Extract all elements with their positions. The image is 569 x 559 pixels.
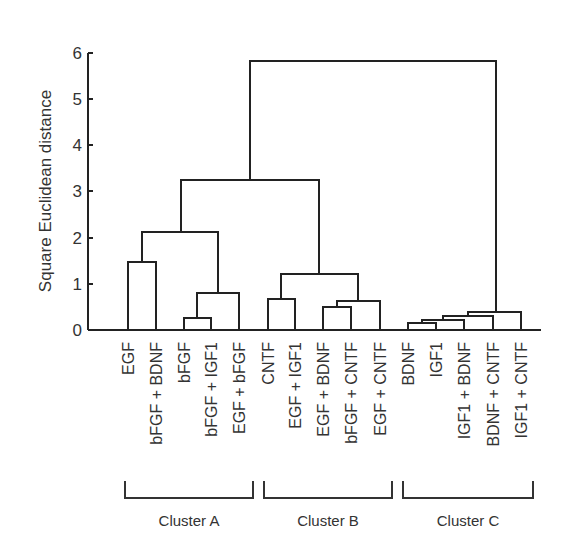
leaf-label: EGF + BDNF [315,342,332,437]
y-tick-label: 2 [73,229,82,248]
leaf-label: EGF + bFGF [231,342,248,434]
y-tick-label: 1 [73,275,82,294]
leaf-label: BDNF + CNTF [485,342,502,447]
merge-m9 [181,180,319,274]
cluster-b-bracket [264,481,392,498]
merge-m2 [184,318,211,330]
leaf-label: EGF + CNTF [372,342,389,436]
y-tick-label: 3 [73,182,82,201]
cluster-a-bracket [125,481,253,498]
cluster-c-bracket [403,481,533,498]
leaf-label: bFGF [176,342,193,383]
y-tick-label: 4 [73,136,82,155]
merge-m3 [197,293,239,330]
cluster-brackets: Cluster A Cluster B Cluster C [125,481,533,529]
leaf-label: BDNF [400,342,417,386]
y-axis-label: Square Euclidean distance [36,90,55,292]
merge-m11 [422,320,464,330]
merge-m12 [443,316,493,330]
leaf-label: bFGF + BDNF [148,342,165,445]
y-tick-label: 6 [73,44,82,63]
cluster-c-label: Cluster C [437,512,500,529]
merge-m1 [128,262,156,330]
dendrogram-chart: 0 1 2 3 4 5 6 Square Euclidean distance … [0,0,569,559]
leaf-label: EGF [120,342,137,375]
merge-m6 [323,307,351,330]
leaf-label: IGF1 [428,342,445,378]
y-tick-label: 5 [73,90,82,109]
y-tick-label: 0 [73,321,82,340]
merge-m10 [408,323,436,330]
cluster-a-label: Cluster A [159,512,220,529]
merge-m13 [468,312,521,330]
leaf-label: IGF1 + CNTF [513,342,530,439]
leaf-labels: EGF bFGF + BDNF bFGF bFGF + IGF1 EGF + b… [120,342,530,447]
cluster-b-label: Cluster B [297,512,359,529]
leaf-label: bFGF + CNTF [343,342,360,444]
y-axis: 0 1 2 3 4 5 6 Square Euclidean distance [36,44,93,340]
merge-m7 [337,301,380,330]
leaf-label: IGF1 + BDNF [456,342,473,440]
leaf-label: bFGF + IGF1 [203,342,220,437]
leaf-label: EGF + IGF1 [287,342,304,429]
merge-m8 [281,274,358,301]
merge-m5 [268,299,295,330]
leaf-label: CNTF [260,342,277,385]
dendrogram-links [128,61,521,330]
